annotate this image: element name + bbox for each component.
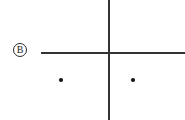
point-marker-left [59,78,63,82]
circled-label-b-text: B [17,45,24,55]
horizontal-axis-line [41,52,185,54]
circled-label-b: B [13,43,27,57]
point-marker-right [131,78,135,82]
vertical-axis-line [108,0,110,120]
diagram-canvas: B [0,0,185,120]
